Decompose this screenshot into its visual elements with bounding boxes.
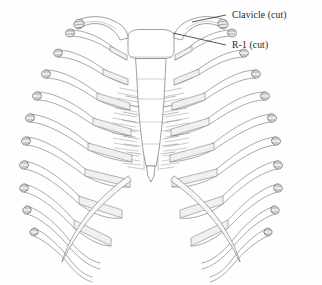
manubrium [128,30,174,59]
label-rib-1: R-1 (cut) [232,39,268,51]
label-clavicle: Clavicle (cut) [232,9,287,21]
anatomy-figure: Clavicle (cut) R-1 (cut) [0,0,322,285]
thoracic-cage-illustration: Clavicle (cut) R-1 (cut) [0,0,322,285]
